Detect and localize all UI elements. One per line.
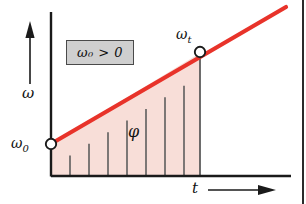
omega-zero-label-symbol: ω xyxy=(11,135,22,151)
omega-zero-marker-icon xyxy=(46,139,56,149)
omega-axis-label: ω xyxy=(22,86,34,101)
t-direction-arrow-icon xyxy=(208,185,276,195)
omega-t-label: ωt xyxy=(176,27,191,45)
omega-zero-label: ω0 xyxy=(11,136,29,154)
page-edge-rule xyxy=(302,0,304,204)
t-axis-label: t xyxy=(192,181,198,196)
omega-t-label-subscript: t xyxy=(187,34,191,45)
omega-t-label-symbol: ω xyxy=(176,26,187,42)
angular-velocity-time-figure: ω t ω0 ωt φ ω₀ > 0 xyxy=(0,0,306,204)
phi-area-label: φ xyxy=(128,124,139,140)
omega-direction-arrow-icon xyxy=(25,21,34,84)
figure-canvas xyxy=(0,0,306,204)
condition-text: ω₀ > 0 xyxy=(77,46,123,59)
condition-box: ω₀ > 0 xyxy=(66,40,134,65)
omega-t-marker-icon xyxy=(195,47,205,57)
omega-zero-label-subscript: 0 xyxy=(22,143,28,154)
